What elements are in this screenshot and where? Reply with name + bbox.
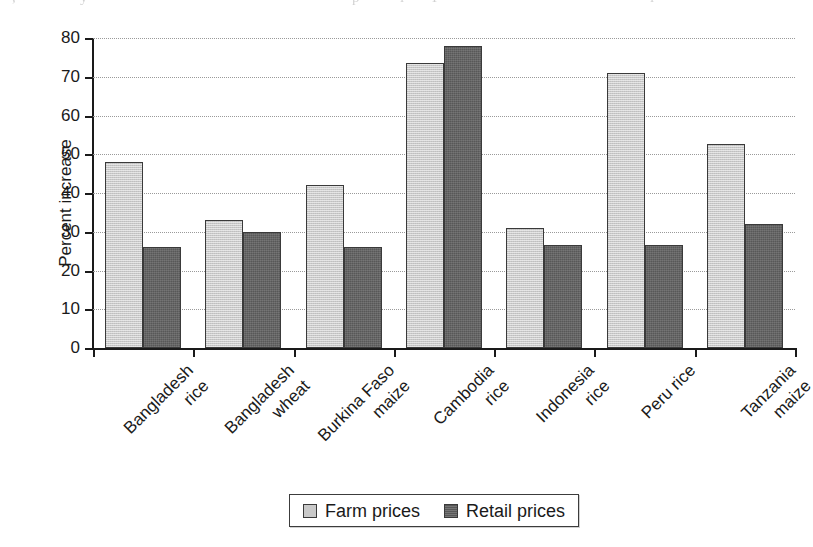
y-axis-tick-label: 60 (20, 107, 80, 124)
y-axis-tick (85, 116, 93, 118)
legend-label: Retail prices (466, 502, 565, 520)
bar-retail (243, 232, 281, 348)
y-axis-tick-label: 50 (20, 145, 80, 162)
bar-retail (645, 245, 683, 348)
chart-legend: Farm pricesRetail prices (289, 494, 579, 527)
y-axis-tick (85, 193, 93, 195)
plot-area (93, 38, 795, 348)
bar-farm (306, 185, 344, 348)
bar-chart: Percent increase 80706050403020100 Bangl… (0, 0, 813, 547)
x-axis-category-label: Bangladeshrice (120, 360, 215, 455)
y-axis-tick-label: 10 (20, 300, 80, 317)
bar-farm (506, 228, 544, 348)
bar-retail (544, 245, 582, 348)
bar-farm (406, 63, 444, 348)
x-axis-category-label: Cambodiarice (429, 360, 515, 446)
x-axis-tick (193, 348, 195, 357)
y-axis-tick (85, 77, 93, 79)
x-axis-tick (594, 348, 596, 357)
x-axis-category-label: Burkina Fasomaize (313, 360, 415, 462)
y-axis-tick (85, 38, 93, 40)
legend-entry: Farm prices (303, 502, 420, 520)
gridline (93, 38, 795, 39)
bar-retail (444, 46, 482, 348)
bar-retail (344, 247, 382, 348)
bar-farm (205, 220, 243, 348)
bar-farm (105, 162, 143, 348)
x-axis-category-label: Indonesiarice (532, 360, 615, 443)
y-axis-tick (85, 309, 93, 311)
y-axis-tick-label: 40 (20, 184, 80, 201)
x-axis-tick (394, 348, 396, 357)
y-axis-tick (85, 271, 93, 273)
legend-label: Farm prices (325, 502, 420, 520)
gridline (93, 348, 795, 349)
x-axis-tick (93, 348, 95, 357)
x-axis-tick (494, 348, 496, 357)
y-axis-tick-label: 0 (20, 339, 80, 356)
x-axis-tick (695, 348, 697, 357)
bar-farm (707, 144, 745, 348)
y-axis-tick (85, 348, 93, 350)
y-axis-tick-label: 20 (20, 262, 80, 279)
x-axis-tick (294, 348, 296, 357)
y-axis-tick-label: 30 (20, 223, 80, 240)
x-axis-category-label: Tanzaniamaize (737, 360, 813, 439)
legend-swatch-retail (444, 504, 458, 518)
y-axis-tick-label: 70 (20, 68, 80, 85)
x-axis-category-label: Bangladeshwheat (220, 360, 315, 455)
x-axis-category-label: Peru rice (637, 360, 701, 424)
y-axis-tick (85, 232, 93, 234)
bar-retail (143, 247, 181, 348)
bar-farm (607, 73, 645, 348)
x-axis-tick (795, 348, 797, 357)
y-axis-tick-label: 80 (20, 29, 80, 46)
bar-retail (745, 224, 783, 348)
legend-swatch-farm (303, 504, 317, 518)
y-axis-tick (85, 154, 93, 156)
legend-entry: Retail prices (444, 502, 565, 520)
category-label-line1: Peru rice (637, 360, 701, 424)
